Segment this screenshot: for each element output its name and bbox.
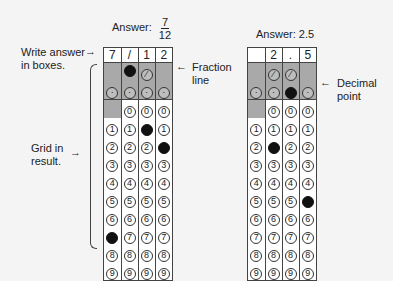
digit-bubble[interactable]: 3 <box>124 160 136 172</box>
digit-bubble[interactable]: 0 <box>124 106 136 118</box>
decimal-bubble[interactable]: · <box>268 87 280 99</box>
digit-bubble[interactable]: 3 <box>302 160 314 172</box>
digit-bubble[interactable]: 7 <box>124 232 136 244</box>
digit-bubble[interactable]: 1 <box>158 124 170 136</box>
digit-bubble[interactable]: 0 <box>268 106 280 118</box>
filled-digit-bubble[interactable]: 2 <box>268 142 280 154</box>
digit-bubble[interactable]: 2 <box>106 142 118 154</box>
digit-bubble[interactable]: 9 <box>285 268 297 280</box>
digit-bubble[interactable]: 6 <box>268 214 280 226</box>
answer-box[interactable]: / <box>121 48 138 63</box>
digit-bubble[interactable]: 7 <box>141 232 153 244</box>
digit-bubble[interactable]: 5 <box>124 196 136 208</box>
digit-bubble[interactable]: 7 <box>250 232 262 244</box>
digit-bubble[interactable]: 9 <box>141 268 153 280</box>
digit-bubble[interactable]: 1 <box>106 124 118 136</box>
digit-bubble[interactable]: 2 <box>250 142 262 154</box>
digit-bubble[interactable]: 0 <box>158 106 170 118</box>
grid-in-2: result. <box>31 155 63 168</box>
digit-bubble[interactable]: 2 <box>124 142 136 154</box>
digit-bubble[interactable]: 8 <box>106 250 118 262</box>
answer-box[interactable]: 5 <box>299 48 316 63</box>
digit-bubble[interactable]: 4 <box>268 178 280 190</box>
digit-bubble[interactable]: 7 <box>158 232 170 244</box>
digit-bubble[interactable]: 9 <box>250 268 262 280</box>
answer-box[interactable]: 7 <box>104 48 121 63</box>
filled-digit-bubble[interactable]: 7 <box>106 232 118 244</box>
digit-bubble[interactable]: 8 <box>158 250 170 262</box>
digit-bubble[interactable]: 4 <box>302 178 314 190</box>
answer-box[interactable]: 2 <box>265 48 282 63</box>
slash-bubble[interactable]: ⁄ <box>268 69 280 81</box>
answer-box[interactable] <box>248 48 265 63</box>
filled-slash-bubble[interactable] <box>124 65 136 77</box>
digit-bubble[interactable]: 0 <box>302 106 314 118</box>
digit-bubble[interactable]: 7 <box>268 232 280 244</box>
decimal-bubble[interactable]: · <box>158 87 170 99</box>
decimal-bubble[interactable]: · <box>250 87 262 99</box>
digit-bubble[interactable]: 9 <box>268 268 280 280</box>
digit-bubble[interactable]: 5 <box>285 196 297 208</box>
decimal-bubble[interactable]: · <box>141 87 153 99</box>
decimal-bubble[interactable]: · <box>124 87 136 99</box>
digit-bubble[interactable]: 8 <box>141 250 153 262</box>
filled-digit-bubble[interactable]: 1 <box>141 124 153 136</box>
digit-bubble[interactable]: 2 <box>302 142 314 154</box>
slash-bubble[interactable]: ⁄ <box>285 69 297 81</box>
digit-bubble[interactable]: 4 <box>124 178 136 190</box>
digit-bubble[interactable]: 4 <box>158 178 170 190</box>
digit-bubble[interactable]: 5 <box>141 196 153 208</box>
answer-box[interactable]: 2 <box>155 48 172 63</box>
digit-bubble[interactable]: 1 <box>250 124 262 136</box>
filled-decimal-bubble[interactable]: · <box>285 87 297 99</box>
slash-bubble[interactable]: ⁄ <box>141 69 153 81</box>
digit-bubble[interactable]: 2 <box>285 142 297 154</box>
digit-bubble[interactable]: 9 <box>106 268 118 280</box>
digit-bubble[interactable]: 1 <box>302 124 314 136</box>
digit-bubble[interactable]: 4 <box>106 178 118 190</box>
digit-bubble[interactable]: 6 <box>158 214 170 226</box>
digit-bubble[interactable]: 5 <box>250 196 262 208</box>
digit-bubble[interactable]: 4 <box>141 178 153 190</box>
digit-bubble[interactable]: 5 <box>158 196 170 208</box>
digit-bubble[interactable]: 3 <box>106 160 118 172</box>
digit-bubble[interactable]: 6 <box>124 214 136 226</box>
decimal-bubble[interactable]: · <box>106 87 118 99</box>
digit-bubble[interactable]: 3 <box>250 160 262 172</box>
digit-bubble[interactable]: 9 <box>158 268 170 280</box>
digit-bubble[interactable]: 1 <box>285 124 297 136</box>
digit-bubble[interactable]: 6 <box>250 214 262 226</box>
digit-bubble[interactable]: 8 <box>268 250 280 262</box>
digit-bubble[interactable]: 6 <box>141 214 153 226</box>
digit-bubble[interactable]: 0 <box>141 106 153 118</box>
digit-bubble[interactable]: 5 <box>106 196 118 208</box>
digit-bubble[interactable]: 6 <box>106 214 118 226</box>
digit-bubble[interactable]: 8 <box>250 250 262 262</box>
digit-bubble[interactable]: 7 <box>285 232 297 244</box>
digit-bubble[interactable]: 6 <box>302 214 314 226</box>
digit-bubble[interactable]: 4 <box>250 178 262 190</box>
digit-bubble[interactable]: 2 <box>141 142 153 154</box>
digit-bubble[interactable]: 3 <box>141 160 153 172</box>
digit-bubble[interactable]: 5 <box>268 196 280 208</box>
digit-bubble[interactable]: 9 <box>302 268 314 280</box>
digit-bubble[interactable]: 0 <box>285 106 297 118</box>
answer-box[interactable]: . <box>282 48 299 63</box>
digit-bubble[interactable]: 1 <box>268 124 280 136</box>
digit-bubble[interactable]: 3 <box>268 160 280 172</box>
digit-bubble[interactable]: 1 <box>124 124 136 136</box>
digit-bubble[interactable]: 8 <box>302 250 314 262</box>
filled-digit-bubble[interactable]: 5 <box>302 196 314 208</box>
digit-bubble[interactable]: 3 <box>285 160 297 172</box>
digit-bubble[interactable]: 4 <box>285 178 297 190</box>
digit-bubble[interactable]: 3 <box>158 160 170 172</box>
digit-bubble[interactable]: 9 <box>124 268 136 280</box>
decimal-bubble[interactable]: · <box>302 87 314 99</box>
write-answer-annotation: Write answer in boxes. <box>21 46 85 72</box>
digit-bubble[interactable]: 7 <box>302 232 314 244</box>
digit-bubble[interactable]: 6 <box>285 214 297 226</box>
answer-box[interactable]: 1 <box>138 48 155 63</box>
filled-digit-bubble[interactable]: 2 <box>158 142 170 154</box>
digit-bubble[interactable]: 8 <box>124 250 136 262</box>
digit-bubble[interactable]: 8 <box>285 250 297 262</box>
